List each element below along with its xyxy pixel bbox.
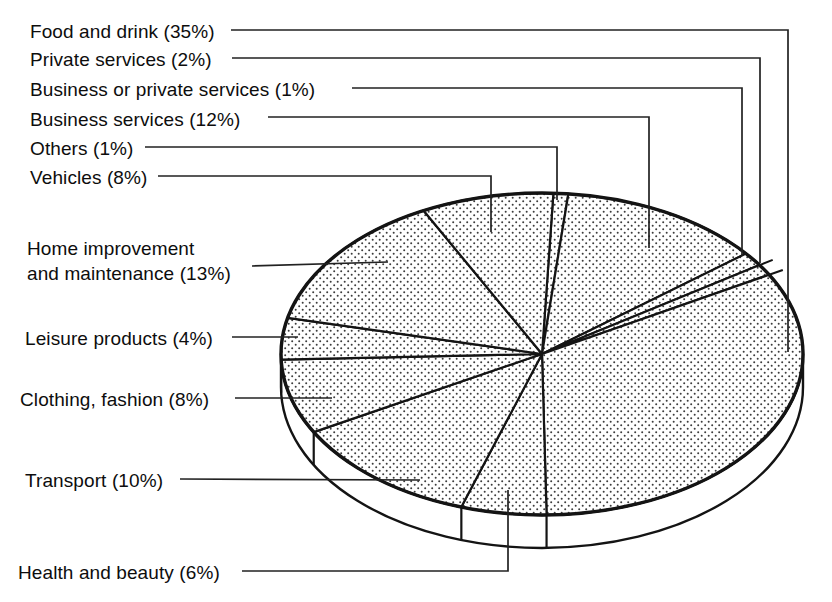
slice-boundary-overshoot	[760, 260, 773, 265]
pie-chart-svg	[0, 0, 832, 602]
slice-boundary-overshoot	[769, 270, 783, 275]
pie-chart-figure: Food and drink (35%)Private services (2%…	[0, 0, 832, 602]
leader-line-others	[145, 147, 557, 200]
leader-line-transport	[180, 479, 420, 480]
